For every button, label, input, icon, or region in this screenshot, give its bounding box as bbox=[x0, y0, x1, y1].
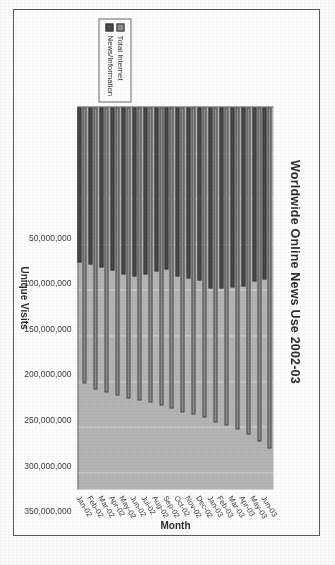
bar-group bbox=[217, 107, 228, 489]
bar-total-internet bbox=[246, 107, 250, 434]
bar-group bbox=[250, 107, 261, 489]
bar-total-internet bbox=[159, 107, 163, 405]
bar-news-information bbox=[230, 107, 234, 287]
scanned-page: Worldwide Online News Use 2002-03 400,00… bbox=[0, 0, 335, 565]
bar-total-internet bbox=[180, 107, 184, 412]
bar-group bbox=[228, 107, 239, 489]
bar-news-information bbox=[154, 107, 158, 271]
legend-swatch-icon bbox=[106, 23, 114, 31]
bar-news-information bbox=[143, 107, 147, 274]
bar-news-information bbox=[175, 107, 179, 276]
bar-total-internet bbox=[257, 107, 261, 441]
bar-news-information bbox=[197, 107, 201, 280]
bar-total-internet bbox=[191, 107, 195, 414]
bar-news-information bbox=[219, 107, 223, 288]
bar-news-information bbox=[99, 107, 103, 267]
bar-total-internet bbox=[115, 107, 119, 395]
bar-total-internet bbox=[82, 107, 86, 383]
bar-news-information bbox=[186, 107, 190, 278]
bar-news-information bbox=[252, 107, 256, 281]
bar-news-information bbox=[110, 107, 114, 270]
legend-swatch-icon bbox=[116, 23, 124, 31]
bar-group bbox=[86, 107, 97, 489]
bar-total-internet bbox=[137, 107, 141, 400]
legend-item: Total Internet bbox=[116, 23, 125, 96]
bar-group bbox=[184, 107, 195, 489]
bar-group bbox=[195, 107, 206, 489]
bar-news-information bbox=[77, 107, 81, 262]
legend-item: News/Information bbox=[105, 23, 114, 96]
bar-total-internet bbox=[202, 107, 206, 417]
bar-total-internet bbox=[235, 107, 239, 429]
value-tick-label: 350,000,000 bbox=[14, 505, 71, 515]
plot-area bbox=[77, 106, 273, 489]
bar-news-information bbox=[241, 107, 245, 286]
bar-group bbox=[141, 107, 152, 489]
legend-label: News/Information bbox=[105, 35, 114, 96]
bar-news-information bbox=[208, 107, 212, 288]
bar-group bbox=[261, 107, 272, 489]
bar-chart: Worldwide Online News Use 2002-03 400,00… bbox=[14, 10, 317, 533]
category-axis-title: Month bbox=[160, 519, 190, 530]
bar-group bbox=[152, 107, 163, 489]
bar-group bbox=[239, 107, 250, 489]
rotated-chart-wrapper: Worldwide Online News Use 2002-03 400,00… bbox=[14, 10, 317, 533]
bar-news-information bbox=[132, 107, 136, 276]
bar-total-internet bbox=[93, 107, 97, 389]
legend-label: Total Internet bbox=[116, 35, 125, 80]
bar-total-internet bbox=[148, 107, 152, 402]
value-axis-title: Unique Visits bbox=[18, 106, 29, 489]
bar-news-information bbox=[164, 107, 168, 269]
bar-group bbox=[130, 107, 141, 489]
bar-total-internet bbox=[213, 107, 217, 422]
bar-group bbox=[174, 107, 185, 489]
chart-title: Worldwide Online News Use 2002-03 bbox=[287, 10, 301, 533]
bar-group bbox=[119, 107, 130, 489]
bar-group bbox=[76, 107, 87, 489]
bar-group bbox=[97, 107, 108, 489]
bar-news-information bbox=[121, 107, 125, 274]
bar-total-internet bbox=[126, 107, 130, 398]
bar-group bbox=[163, 107, 174, 489]
bar-total-internet bbox=[267, 107, 271, 448]
bar-news-information bbox=[262, 107, 266, 279]
chart-legend: Total InternetNews/Information bbox=[99, 18, 132, 102]
bar-total-internet bbox=[104, 107, 108, 392]
bar-group bbox=[206, 107, 217, 489]
bar-total-internet bbox=[169, 107, 173, 408]
bar-total-internet bbox=[224, 107, 228, 425]
bar-group bbox=[108, 107, 119, 489]
bar-news-information bbox=[88, 107, 92, 264]
